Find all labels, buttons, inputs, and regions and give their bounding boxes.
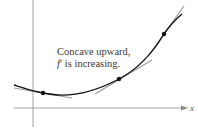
tangent-point-1 <box>41 91 45 95</box>
annotation-rest: is increasing. <box>62 58 120 69</box>
annotation-line-2: f′ is increasing. <box>57 58 120 69</box>
x-axis-label: x <box>189 103 194 113</box>
annotation-line-1: Concave upward, <box>57 46 130 57</box>
tangent-point-3 <box>162 32 166 36</box>
tangent-point-2 <box>117 77 121 81</box>
x-axis-arrowhead <box>181 106 188 111</box>
concavity-diagram: x Concave upward, f′ is increasing. <box>0 0 198 134</box>
